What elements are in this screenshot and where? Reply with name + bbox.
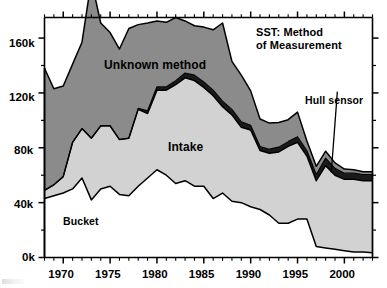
chart-figure: SST: Methodof Measurement Unknown method… (0, 0, 387, 288)
y-axis-tick-label-160k: 160k (9, 37, 35, 49)
x-axis-tick-label-1970: 1970 (48, 268, 74, 280)
x-axis-tick-label-1995: 1995 (283, 268, 309, 280)
series-label-unknown-method: Unknown method (104, 58, 206, 72)
chart-title: SST: Methodof Measurement (256, 26, 342, 52)
chart-title-line2: of Measurement (256, 39, 342, 51)
series-label-bucket: Bucket (63, 215, 99, 227)
y-axis-tick-label-120k: 120k (9, 91, 35, 103)
x-axis-tick-label-1980: 1980 (142, 268, 168, 280)
series-label-intake: Intake (168, 140, 203, 154)
y-axis-tick-label-40k: 40k (14, 198, 33, 210)
x-axis-tick-label-2000: 2000 (329, 268, 355, 280)
y-axis-tick-label-80k: 80k (14, 144, 33, 156)
x-axis-tick-label-1985: 1985 (189, 268, 215, 280)
y-axis-tick-label-0k: 0k (22, 251, 35, 263)
x-axis-tick-label-1990: 1990 (236, 268, 262, 280)
series-label-hull-sensor: Hull sensor (305, 94, 363, 106)
scan-artifact (2, 279, 24, 284)
chart-title-line1: SST: Method (256, 26, 323, 38)
x-axis-tick-label-1975: 1975 (95, 268, 121, 280)
